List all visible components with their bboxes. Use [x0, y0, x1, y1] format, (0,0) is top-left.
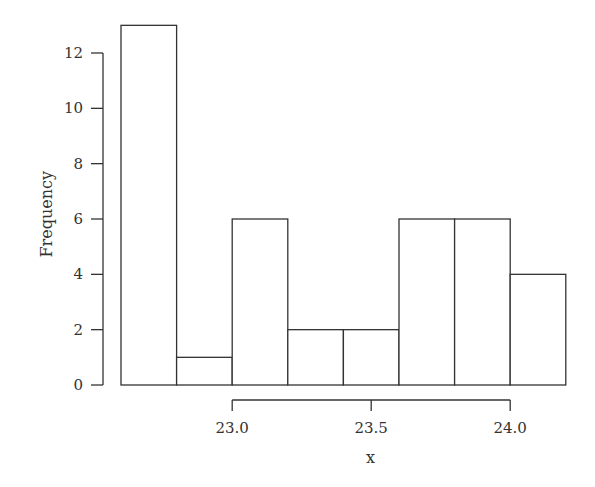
histogram-bar	[510, 274, 566, 385]
y-tick-label: 10	[43, 99, 83, 117]
histogram-bar	[177, 357, 233, 385]
histogram-bar	[399, 219, 455, 385]
x-tick-label: 23.0	[215, 419, 248, 437]
x-tick-label: 23.5	[354, 419, 387, 437]
x-tick-label: 24.0	[493, 419, 526, 437]
histogram-plot	[0, 0, 595, 487]
y-tick-label: 12	[43, 44, 83, 62]
x-axis-label: x	[366, 448, 375, 467]
histogram-bar	[455, 219, 511, 385]
y-tick-label: 8	[43, 155, 83, 173]
histogram-bar	[232, 219, 288, 385]
histogram-bar	[121, 25, 177, 385]
y-tick-label: 0	[43, 376, 83, 394]
y-tick-label: 4	[43, 265, 83, 283]
y-tick-label: 2	[43, 321, 83, 339]
histogram-bar	[288, 330, 344, 385]
histogram-bar	[343, 330, 399, 385]
y-axis-label: Frequency	[37, 178, 56, 258]
